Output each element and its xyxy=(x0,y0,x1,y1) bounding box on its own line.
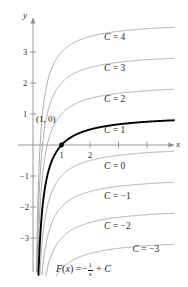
y-tick-label-neg1: −1 xyxy=(20,172,29,181)
axes-group xyxy=(18,18,174,272)
curve-label-value: 1 xyxy=(121,125,126,135)
curve-label-c-neg3: C = −3 xyxy=(133,245,160,255)
highlight-point-dot xyxy=(59,143,64,148)
x-axis-arrow xyxy=(169,142,175,147)
y-tick-label-neg2: −2 xyxy=(20,203,29,212)
curve-label-c-2: C = 2 xyxy=(104,95,125,105)
curve-label-value: 0 xyxy=(121,161,126,171)
curve-label-equals: = xyxy=(139,244,149,254)
curve-label-c-0: C = 0 xyxy=(104,162,125,172)
curve-label-value: 2 xyxy=(121,94,126,104)
curve-label-equals: = xyxy=(110,161,120,171)
y-tick-label-1: 1 xyxy=(23,110,27,119)
x-tick-label-2: 2 xyxy=(88,151,92,160)
point-label-1-0: (1, 0) xyxy=(36,115,56,124)
curve-label-c-neg1: C = −1 xyxy=(104,192,131,202)
formula-constant: C xyxy=(104,263,111,274)
formula-denominator: x xyxy=(88,271,94,278)
formula-numerator: 1 xyxy=(88,262,94,269)
curve-label-c-3: C = 3 xyxy=(104,64,125,74)
highlight-point-group xyxy=(59,143,64,148)
y-axis-arrow xyxy=(30,18,35,24)
curve-label-equals: = xyxy=(110,32,120,42)
curve-label-equals: = xyxy=(110,221,120,231)
curve-label-value: −2 xyxy=(121,221,131,231)
curve-label-c-4: C = 4 xyxy=(104,33,125,43)
formula-plus: + xyxy=(96,263,102,274)
y-tick-label-3: 3 xyxy=(23,48,27,57)
formula-close-paren: ) xyxy=(70,263,73,274)
curve-label-equals: = xyxy=(110,63,120,73)
x-axis-label: x xyxy=(176,140,180,149)
formula-label: F(x) =−1x + C xyxy=(56,262,111,278)
curve-label-c-1: C = 1 xyxy=(104,126,125,136)
formula-minus: − xyxy=(81,263,87,274)
curve-label-value: 3 xyxy=(121,63,126,73)
curve-label-c-neg2: C = −2 xyxy=(104,222,131,232)
y-tick-label-neg3: −3 xyxy=(20,234,29,243)
curve-label-equals: = xyxy=(110,94,120,104)
y-tick-label-2: 2 xyxy=(23,79,27,88)
formula-fraction: 1x xyxy=(88,262,94,278)
y-axis-label: y xyxy=(23,11,27,20)
curve-label-value: −3 xyxy=(149,244,159,254)
curve-label-equals: = xyxy=(110,191,120,201)
plot-canvas xyxy=(0,0,188,287)
curve-label-value: −1 xyxy=(121,191,131,201)
curve-label-value: 4 xyxy=(121,32,126,42)
x-tick-label-1: 1 xyxy=(60,151,64,160)
antiderivative-family-figure: y x (1, 0) 12321−1−2−3 C = 4C = 3C = 2C … xyxy=(0,0,188,287)
curve-label-equals: = xyxy=(110,125,120,135)
